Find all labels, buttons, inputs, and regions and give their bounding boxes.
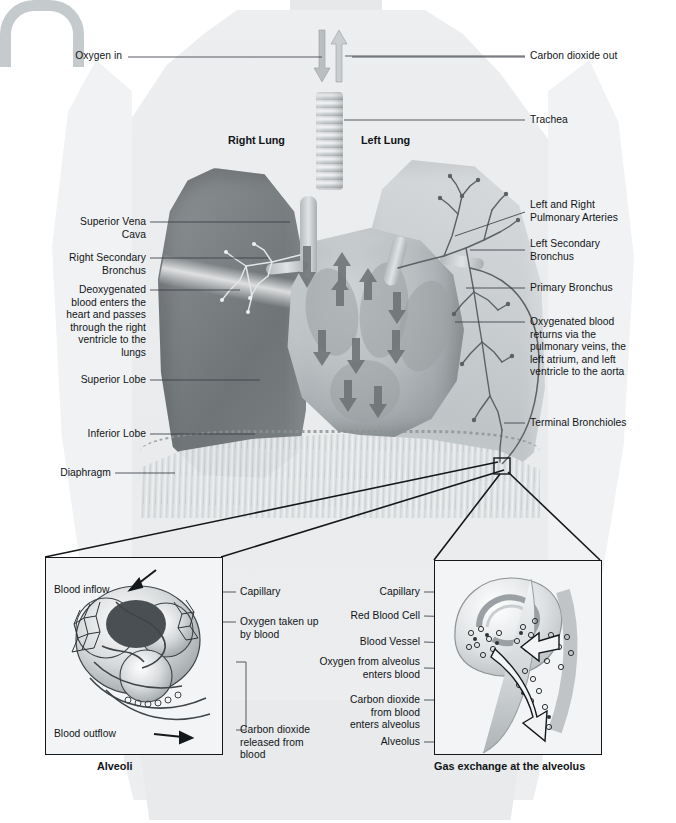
respiratory-system-diagram: Oxygen in Carbon dioxide out Right Lung … (0, 0, 676, 823)
gas-exchange-inset-panel (434, 560, 602, 755)
label-oxygenated-blood: Oxygenated blood returns via the pulmona… (530, 316, 674, 379)
gas-exchange-illustration (435, 561, 601, 754)
label-oxygen-from-alveolus-enters-blood: Oxygen from alveolus enters blood (288, 656, 420, 681)
label-blood-vessel: Blood Vessel (300, 636, 420, 649)
left-lung-label: Left Lung (361, 134, 410, 146)
blood-inflow-label: Blood inflow (54, 584, 110, 595)
alveoli-inset-panel: Blood inflow Blood outflow (45, 557, 223, 755)
label-inset-right-capillary: Capillary (300, 586, 420, 599)
label-red-blood-cell: Red Blood Cell (300, 610, 420, 623)
diaphragm-rim (140, 430, 540, 473)
carbon-dioxide-out-label: Carbon dioxide out (530, 50, 670, 63)
label-superior-lobe: Superior Lobe (26, 374, 146, 387)
blood-outflow-label: Blood outflow (54, 728, 116, 739)
label-right-secondary-bronchus: Right Secondary Bronchus (10, 252, 146, 277)
right-lung-label: Right Lung (228, 134, 285, 146)
label-inferior-lobe: Inferior Lobe (26, 428, 146, 441)
alveoli-inset-caption: Alveoli (97, 760, 132, 772)
label-left-secondary-bronchus: Left Secondary Bronchus (530, 238, 670, 263)
label-pulmonary-arteries: Left and Right Pulmonary Arteries (530, 199, 674, 224)
label-carbon-dioxide-from-blood-enters-alveolus: Carbon dioxide from blood enters alveolu… (288, 694, 420, 732)
label-diaphragm: Diaphragm (26, 467, 111, 480)
label-terminal-bronchioles: Terminal Bronchioles (530, 417, 676, 430)
trachea-illustration (316, 92, 343, 190)
label-primary-bronchus: Primary Bronchus (530, 282, 674, 295)
label-trachea: Trachea (530, 114, 670, 127)
label-deoxygenated-blood: Deoxygenated blood enters the heart and … (18, 284, 146, 360)
oxygen-in-label: Oxygen in (10, 50, 122, 63)
label-alveolus: Alveolus (300, 736, 420, 749)
blood-outflow-arrow (154, 732, 192, 743)
gas-exchange-inset-caption: Gas exchange at the alveolus (434, 760, 585, 772)
label-superior-vena-cava: Superior Vena Cava (18, 216, 146, 241)
